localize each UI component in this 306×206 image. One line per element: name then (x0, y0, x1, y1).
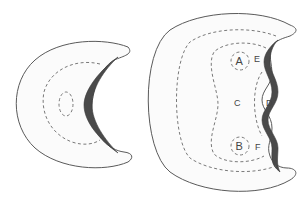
label-f: F (255, 142, 261, 152)
left-crescent (16, 41, 132, 167)
label-e: E (254, 54, 260, 64)
label-c: C (234, 98, 241, 108)
right-crescent: A B C D E F (148, 14, 296, 192)
label-b: B (236, 140, 243, 152)
diagram-canvas: A B C D E F (0, 0, 306, 206)
label-d: D (266, 98, 273, 108)
label-a: A (236, 55, 244, 67)
